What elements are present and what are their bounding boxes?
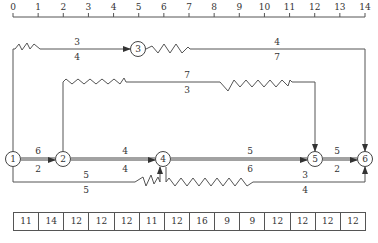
activity-1-4-bottom: 5 bbox=[83, 185, 89, 195]
resource-cell: 11 bbox=[140, 213, 165, 230]
activity-3-6-top: 4 bbox=[274, 37, 280, 47]
resource-cell: 16 bbox=[190, 213, 215, 230]
scale-tick-label: 11 bbox=[284, 2, 295, 12]
resource-cell: 12 bbox=[89, 213, 114, 230]
activity-2-5-top: 7 bbox=[184, 70, 190, 80]
network-diagram: 01234567891011121314 3 4 4 7 7 3 6 2 4 4… bbox=[0, 0, 378, 243]
svg-text:6: 6 bbox=[362, 154, 368, 164]
node-2: 2 bbox=[56, 152, 71, 167]
activity-4-5-bottom: 6 bbox=[247, 164, 253, 174]
scale-tick-label: 13 bbox=[334, 2, 346, 12]
resource-cell: 12 bbox=[291, 213, 316, 230]
svg-text:2: 2 bbox=[60, 154, 66, 164]
activity-3-6: 4 7 bbox=[146, 37, 365, 151]
activity-5-6-bottom: 2 bbox=[334, 164, 340, 174]
resource-cell: 12 bbox=[115, 213, 140, 230]
activity-1-4-top: 5 bbox=[83, 170, 89, 180]
activity-1-2: 6 2 bbox=[21, 146, 55, 174]
scale-tick-label: 0 bbox=[10, 2, 16, 12]
activity-1-3: 3 4 bbox=[13, 37, 130, 159]
resource-table: 11141212121112169912121212 bbox=[13, 212, 366, 231]
scale-tick-label: 5 bbox=[136, 2, 142, 12]
resource-cell: 14 bbox=[39, 213, 64, 230]
node-4: 4 bbox=[156, 152, 171, 167]
activity-4-6-bottom: 4 bbox=[302, 185, 308, 195]
svg-text:3: 3 bbox=[135, 44, 141, 54]
activity-3-6-bottom: 7 bbox=[274, 52, 280, 62]
scale-tick-label: 7 bbox=[186, 2, 192, 12]
activity-4-5: 5 6 bbox=[171, 146, 307, 174]
svg-text:1: 1 bbox=[10, 154, 16, 164]
resource-cell: 12 bbox=[265, 213, 290, 230]
scale-tick-label: 3 bbox=[86, 2, 92, 12]
scale-tick-label: 10 bbox=[259, 2, 271, 12]
activity-2-4-top: 4 bbox=[122, 146, 128, 156]
activity-1-3-bottom: 4 bbox=[74, 52, 80, 62]
resource-cell: 9 bbox=[215, 213, 240, 230]
resource-cell: 12 bbox=[64, 213, 89, 230]
scale-tick-label: 12 bbox=[309, 2, 320, 12]
node-5: 5 bbox=[308, 152, 323, 167]
activity-1-2-top: 6 bbox=[35, 146, 41, 156]
activity-2-5-bottom: 3 bbox=[184, 85, 190, 95]
resource-cell: 11 bbox=[14, 213, 39, 230]
node-6: 6 bbox=[358, 152, 373, 167]
activity-2-4-bottom: 4 bbox=[122, 164, 128, 174]
activity-4-6-top: 3 bbox=[302, 170, 308, 180]
svg-text:4: 4 bbox=[160, 154, 166, 164]
scale-tick-label: 6 bbox=[161, 2, 167, 12]
activity-5-6-top: 5 bbox=[334, 146, 340, 156]
activity-2-5: 7 3 bbox=[63, 70, 315, 151]
activity-4-5-top: 5 bbox=[247, 146, 253, 156]
resource-cell: 12 bbox=[316, 213, 341, 230]
scale-tick-label: 2 bbox=[60, 2, 66, 12]
time-scale: 01234567891011121314 bbox=[10, 2, 371, 17]
node-3: 3 bbox=[131, 42, 146, 57]
node-1: 1 bbox=[6, 152, 21, 167]
scale-tick-label: 9 bbox=[236, 2, 242, 12]
scale-tick-label: 14 bbox=[359, 2, 371, 12]
scale-tick-label: 4 bbox=[111, 2, 117, 12]
activity-5-6: 5 2 bbox=[323, 146, 357, 174]
scale-tick-label: 1 bbox=[35, 2, 41, 12]
resource-cell: 12 bbox=[341, 213, 365, 230]
scale-tick-label: 8 bbox=[211, 2, 217, 12]
activity-1-3-top: 3 bbox=[74, 37, 80, 47]
svg-text:5: 5 bbox=[312, 154, 318, 164]
resource-cell: 9 bbox=[240, 213, 265, 230]
resource-cell: 12 bbox=[165, 213, 190, 230]
activity-1-2-bottom: 2 bbox=[35, 164, 41, 174]
